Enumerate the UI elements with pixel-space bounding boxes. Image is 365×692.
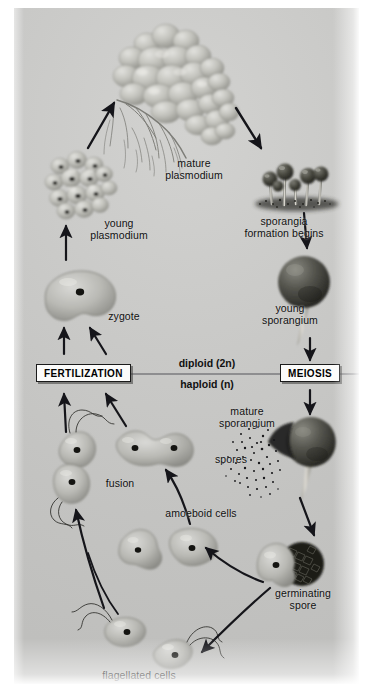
- mature-plasmodium-illustration: [113, 24, 239, 145]
- label-young-plasmodium: young plasmodium: [76, 218, 162, 241]
- amoeboid-cell: [119, 530, 162, 569]
- amoeboid-cell: [169, 529, 217, 566]
- label-young-sporangium: young sporangium: [246, 303, 334, 326]
- label-mature-sporangium: mature sporangium: [200, 406, 294, 429]
- fertilization-box[interactable]: FERTILIZATION: [36, 364, 131, 382]
- fused-binucleate-cell: [116, 431, 193, 466]
- label-amoeboid-cells: amoeboid cells: [154, 508, 248, 520]
- germinating-spore-illustration: [257, 542, 324, 587]
- flagella: [187, 627, 224, 658]
- sporangia-formation-illustration: [255, 164, 339, 212]
- fusion-cell-upper: [59, 410, 114, 467]
- flagellated-cell-illustration: [72, 604, 145, 647]
- label-germinating-spore: germinating spore: [260, 588, 346, 611]
- fusion-cell-lower: [51, 464, 90, 528]
- diagram-canvas: [14, 8, 359, 684]
- diploid-label: diploid (2n): [164, 357, 250, 369]
- life-cycle-figure: mature plasmodium young plasmodium spora…: [0, 0, 365, 692]
- meiosis-box[interactable]: MEIOSIS: [280, 364, 340, 382]
- label-zygote: zygote: [98, 311, 150, 323]
- haploid-label: haploid (n): [164, 378, 250, 390]
- mature-sporangium-illustration: [268, 417, 336, 503]
- label-mature-plasmodium: mature plasmodium: [149, 158, 239, 181]
- young-sporangium-illustration: [278, 256, 330, 346]
- young-plasmodium-illustration: [45, 152, 117, 220]
- label-sporangia-formation: sporangia formation begins: [226, 216, 342, 239]
- flagellated-cell-illustration: [154, 627, 224, 669]
- label-flagellated-cells: flagellated cells: [84, 670, 194, 682]
- label-fusion: fusion: [94, 478, 146, 490]
- diagram-panel: mature plasmodium young plasmodium spora…: [14, 8, 359, 684]
- label-spores: spores: [204, 454, 258, 466]
